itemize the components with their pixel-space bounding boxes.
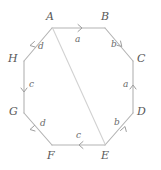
vertex-label-B: B [101,11,109,22]
edge-label-CD: a [123,80,128,89]
diagonal-AE [53,29,105,144]
arrow-FG-icon [30,126,35,132]
edge-FG [24,113,52,145]
edge-label-FG: d [40,119,46,128]
arrow-HA-icon [30,42,35,48]
octagon-figure: A B C D E F G H a b a b c d c d [0,0,161,170]
edge-BC [105,28,133,61]
octagon-diagram-svg [0,0,161,170]
edge-label-DE: b [114,118,120,127]
edge-label-BC: b [111,40,117,49]
arrow-DE-icon [121,127,127,132]
vertex-label-G: G [9,106,18,117]
edge-label-EF: c [76,131,81,140]
vertex-label-D: D [137,106,146,117]
vertex-label-F: F [47,150,55,161]
vertex-label-C: C [137,53,145,64]
edge-label-AB: a [75,35,80,44]
edge-label-GH: c [29,80,34,89]
vertex-label-H: H [8,53,18,64]
edge-label-HA: d [38,42,44,51]
vertex-label-A: A [46,11,54,22]
vertex-label-E: E [101,150,109,161]
